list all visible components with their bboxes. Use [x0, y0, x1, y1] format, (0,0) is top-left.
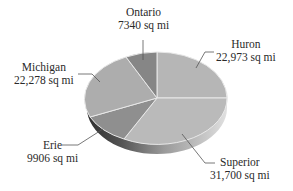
label-superior-value: 31,700 sq mi: [210, 169, 270, 182]
label-ontario: Ontario 7340 sq mi: [118, 6, 169, 32]
label-erie: Erie 9906 sq mi: [27, 139, 78, 165]
label-erie-value: 9906 sq mi: [27, 152, 78, 165]
label-ontario-value: 7340 sq mi: [118, 19, 169, 32]
label-superior-name: Superior: [210, 156, 270, 169]
label-huron-name: Huron: [216, 38, 276, 51]
label-michigan-value: 22,278 sq mi: [14, 74, 74, 87]
pie-slices: [84, 52, 227, 144]
label-michigan-name: Michigan: [14, 61, 74, 74]
label-huron-value: 22,973 sq mi: [216, 51, 276, 64]
label-huron: Huron 22,973 sq mi: [216, 38, 276, 64]
label-ontario-name: Ontario: [118, 6, 169, 19]
label-erie-name: Erie: [27, 139, 78, 152]
label-superior: Superior 31,700 sq mi: [210, 156, 270, 182]
label-michigan: Michigan 22,278 sq mi: [14, 61, 74, 87]
